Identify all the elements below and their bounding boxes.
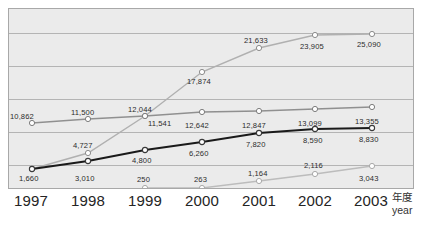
value-label: 2,116 (304, 161, 323, 170)
x-axis-tick-2001: 2001 (242, 192, 276, 209)
value-label: 17,874 (187, 77, 211, 86)
value-label: 3,010 (75, 174, 95, 183)
plot-area: 10,862 11,500 12,044 12,642 12,847 13,09… (8, 8, 414, 189)
x-axis-tick-2003: 2003 (354, 192, 388, 209)
data-point-marker (29, 120, 34, 125)
value-label: 12,642 (185, 121, 209, 130)
value-label: 13,099 (298, 119, 322, 128)
x-axis-caption-en: year (392, 204, 412, 217)
value-label: 25,090 (357, 40, 381, 49)
data-point-marker (312, 106, 317, 111)
value-label: 4,727 (73, 141, 93, 150)
value-label: 23,905 (300, 42, 324, 51)
data-point-marker (256, 45, 261, 50)
value-label: 11,541 (148, 119, 171, 128)
x-axis-tick-1998: 1998 (71, 192, 105, 209)
value-label: 12,847 (242, 121, 266, 130)
data-point-marker (142, 113, 147, 118)
series-lines (9, 9, 414, 189)
data-point-marker (256, 130, 261, 135)
data-point-marker (369, 31, 374, 36)
data-point-marker (256, 178, 261, 183)
value-label: 6,260 (189, 149, 209, 158)
value-label: 4,800 (132, 156, 152, 165)
data-point-marker (199, 69, 204, 74)
value-label: 13,355 (355, 117, 379, 126)
value-label: 250 (137, 175, 150, 184)
data-point-marker (369, 163, 374, 168)
data-point-marker (312, 171, 317, 176)
value-label: 12,044 (128, 105, 152, 114)
x-axis-tick-2002: 2002 (298, 192, 332, 209)
value-label: 3,043 (359, 174, 379, 183)
value-label: 11,500 (71, 108, 94, 117)
data-point-marker (199, 185, 204, 189)
data-point-marker (29, 166, 34, 171)
data-point-marker (369, 125, 374, 130)
data-point-marker (85, 150, 90, 155)
value-label: 21,633 (244, 36, 268, 45)
value-label: 8,830 (359, 135, 379, 144)
data-point-marker (256, 108, 261, 113)
data-point-marker (199, 109, 204, 114)
data-point-marker (199, 139, 204, 144)
data-point-marker (85, 158, 90, 163)
data-point-marker (369, 104, 374, 109)
x-axis-tick-2000: 2000 (185, 192, 219, 209)
value-label: 7,820 (246, 140, 266, 149)
x-axis-tick-1997: 1997 (14, 192, 48, 209)
value-label: 263 (194, 175, 207, 184)
data-point-marker (142, 147, 147, 152)
x-axis-caption: 年度 year (392, 191, 412, 217)
chart-screenshot: 10,862 11,500 12,044 12,642 12,847 13,09… (0, 0, 429, 228)
value-label: 8,590 (303, 136, 323, 145)
value-label: 1,660 (19, 174, 39, 183)
x-axis-caption-jp: 年度 (392, 191, 412, 204)
data-point-marker (312, 32, 317, 37)
data-point-marker (85, 116, 90, 121)
value-label: 1,164 (248, 169, 268, 178)
x-axis-tick-1999: 1999 (128, 192, 162, 209)
data-point-marker (142, 185, 147, 189)
value-label: 10,862 (10, 112, 34, 121)
